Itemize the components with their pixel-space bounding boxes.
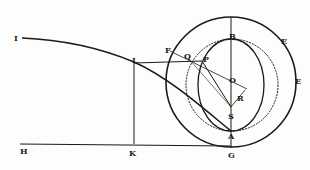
- label-q: Q: [184, 51, 191, 61]
- label-e-right: E: [295, 76, 301, 86]
- label-k: K: [129, 148, 137, 158]
- label-r: R: [237, 93, 244, 103]
- geometric-figure: I L H K F Q P B E E O R S A G: [0, 0, 310, 170]
- label-f: F: [165, 45, 171, 55]
- label-s: S: [228, 111, 234, 121]
- label-a: A: [227, 131, 235, 141]
- label-i: I: [14, 33, 18, 43]
- baseline-hg: [20, 144, 231, 146]
- label-o: O: [229, 75, 236, 85]
- line-qs: [189, 59, 231, 107]
- label-g: G: [228, 150, 235, 160]
- diagram-canvas: I L H K F Q P B E E O R S A G: [0, 0, 310, 170]
- label-e-upper: E: [281, 36, 287, 46]
- label-p: P: [203, 54, 209, 64]
- label-l: L: [132, 55, 138, 65]
- label-h: H: [20, 146, 28, 156]
- label-b: B: [229, 31, 236, 41]
- line-ps: [202, 61, 231, 107]
